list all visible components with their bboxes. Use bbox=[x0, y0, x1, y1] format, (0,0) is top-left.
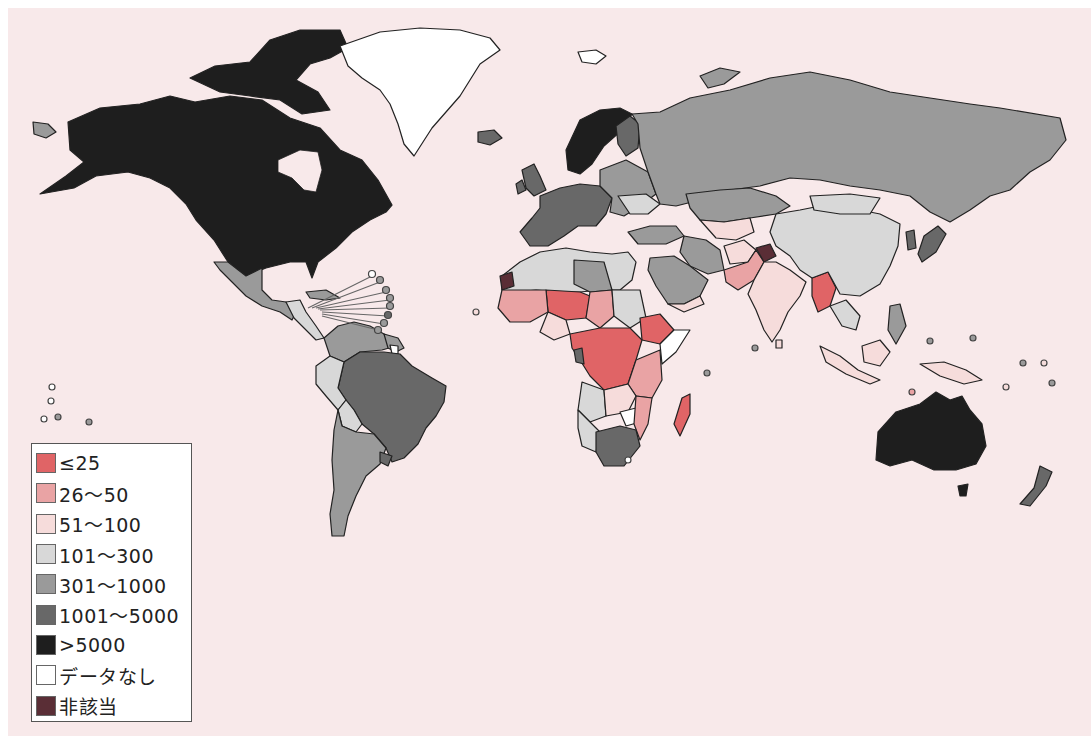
region-australia bbox=[876, 392, 986, 470]
island-marker bbox=[375, 327, 382, 334]
region-mongolia bbox=[810, 194, 880, 214]
island-marker bbox=[383, 287, 390, 294]
island-marker bbox=[473, 309, 479, 315]
island-marker bbox=[970, 335, 976, 341]
legend-label: 非該当 bbox=[59, 692, 118, 719]
island-marker bbox=[55, 414, 61, 420]
region-kazakhstan bbox=[686, 188, 790, 222]
legend-item-no-data: データなし bbox=[36, 660, 191, 690]
legend-swatch bbox=[36, 483, 56, 503]
region-turkey bbox=[628, 226, 684, 244]
legend-swatch bbox=[36, 544, 56, 564]
legend-label: >5000 bbox=[59, 634, 126, 656]
legend-swatch bbox=[36, 453, 56, 473]
region-central-asia bbox=[700, 218, 754, 240]
island-marker bbox=[752, 345, 758, 351]
region-svalbard bbox=[578, 50, 606, 64]
island-marker bbox=[625, 457, 631, 463]
region-japan bbox=[918, 226, 946, 262]
legend-swatch bbox=[36, 574, 56, 594]
legend-item-51-100: 51〜100 bbox=[36, 509, 191, 539]
region-south-africa bbox=[596, 426, 640, 466]
legend-swatch bbox=[36, 635, 56, 655]
region-uk bbox=[522, 164, 546, 196]
region-north-africa bbox=[502, 248, 636, 292]
region-greenland bbox=[340, 28, 500, 156]
island-marker bbox=[1041, 360, 1047, 366]
island-marker bbox=[1020, 360, 1026, 366]
region-iceland bbox=[478, 130, 502, 145]
region-gabon bbox=[574, 348, 584, 364]
region-tasmania bbox=[958, 484, 968, 496]
region-madagascar bbox=[674, 394, 690, 436]
island-marker bbox=[377, 277, 384, 284]
legend-item-26-50: 26〜50 bbox=[36, 478, 191, 508]
legend-item-le25: ≤25 bbox=[36, 448, 191, 478]
legend-item-1001-5000: 1001〜5000 bbox=[36, 599, 191, 629]
legend-swatch bbox=[36, 605, 56, 625]
region-sri-lanka bbox=[776, 340, 782, 348]
region-korea bbox=[906, 230, 916, 250]
island-marker bbox=[369, 271, 376, 278]
legend-swatch bbox=[36, 514, 56, 534]
legend-item-gt5000: >5000 bbox=[36, 630, 191, 660]
region-chad bbox=[586, 290, 614, 328]
region-west-africa bbox=[498, 290, 548, 322]
legend: ≤25 26〜50 51〜100 101〜300 301〜1000 1001〜5… bbox=[31, 443, 192, 722]
region-indochina bbox=[830, 300, 860, 330]
island-marker bbox=[704, 370, 710, 376]
region-new-zealand bbox=[1020, 466, 1052, 506]
island-marker bbox=[927, 338, 933, 344]
legend-label: 51〜100 bbox=[59, 510, 141, 537]
region-borneo bbox=[862, 340, 890, 366]
legend-item-301-1000: 301〜1000 bbox=[36, 569, 191, 599]
legend-label: 101〜300 bbox=[59, 541, 154, 568]
region-philippines bbox=[888, 304, 906, 344]
island-marker bbox=[1003, 384, 1009, 390]
island-marker bbox=[48, 398, 54, 404]
region-new-guinea bbox=[920, 362, 982, 384]
island-marker bbox=[86, 419, 92, 425]
legend-label: 301〜1000 bbox=[59, 571, 167, 598]
island-marker bbox=[387, 303, 394, 310]
island-marker bbox=[41, 416, 47, 422]
island-marker bbox=[381, 320, 388, 327]
legend-item-101-300: 101〜300 bbox=[36, 539, 191, 569]
island-marker bbox=[49, 384, 55, 390]
legend-swatch bbox=[36, 665, 56, 685]
island-marker bbox=[1049, 380, 1055, 386]
legend-swatch bbox=[36, 696, 56, 716]
region-novaya-zemlya bbox=[700, 68, 740, 88]
region-western-sahara bbox=[500, 272, 514, 290]
island-marker bbox=[909, 389, 915, 395]
region-chukotka-west bbox=[33, 122, 56, 138]
legend-label: 26〜50 bbox=[59, 480, 129, 507]
legend-label: 1001〜5000 bbox=[59, 601, 179, 628]
region-india bbox=[748, 262, 806, 342]
region-north-america bbox=[40, 96, 392, 278]
island-marker bbox=[387, 295, 394, 302]
island-marker bbox=[385, 312, 392, 319]
legend-item-not-applicable: 非該当 bbox=[36, 690, 191, 720]
legend-label: データなし bbox=[59, 662, 157, 689]
legend-label: ≤25 bbox=[59, 452, 101, 474]
